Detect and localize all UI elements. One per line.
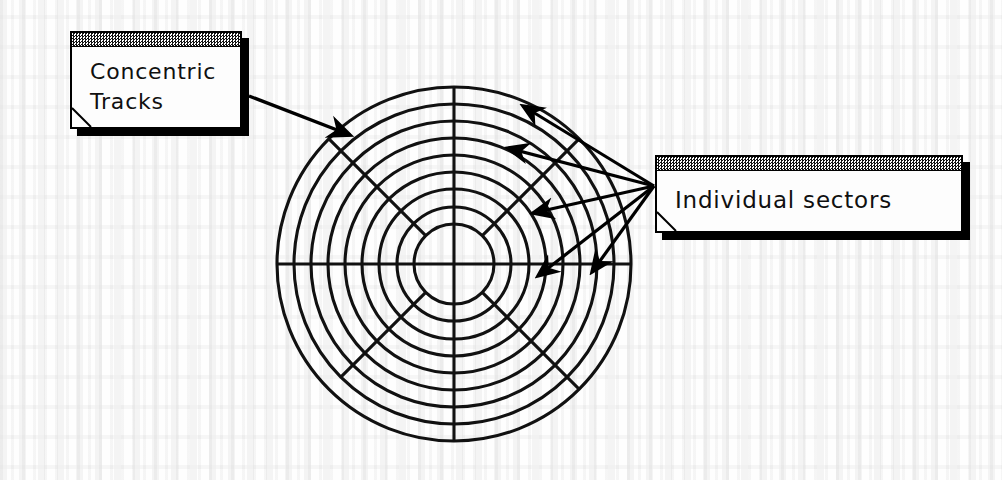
callout-body: Concentric Tracks xyxy=(70,31,242,129)
sector-spoke-135 xyxy=(329,139,426,236)
callout-body: Individual sectors xyxy=(655,155,963,233)
callout-label-concentric-tracks: Concentric Tracks xyxy=(72,46,240,127)
leader-arrow-tracks xyxy=(249,96,350,135)
leader-arrow-sector-2 xyxy=(508,148,654,186)
callout-label-individual-sectors: Individual sectors xyxy=(657,170,961,231)
figure-canvas: Concentric Tracks Individual sectors xyxy=(0,0,1002,480)
leader-concentric-tracks xyxy=(249,96,350,135)
callout-concentric-tracks[interactable]: Concentric Tracks xyxy=(70,31,242,129)
callout-hatched-header xyxy=(72,33,240,47)
leader-individual-sectors xyxy=(508,106,654,276)
sector-spoke-315 xyxy=(482,292,579,389)
callout-individual-sectors[interactable]: Individual sectors xyxy=(655,155,963,233)
callout-hatched-header xyxy=(657,157,961,171)
